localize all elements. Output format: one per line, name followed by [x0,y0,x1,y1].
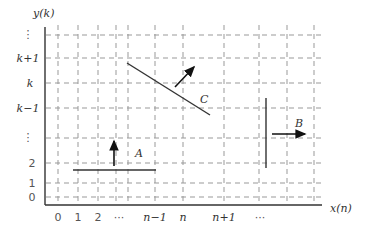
label-c: C [200,93,209,106]
svg-text:1: 1 [29,177,36,190]
svg-text:k−1: k−1 [17,102,40,115]
svg-text:⋮: ⋮ [23,28,34,41]
svg-text:n−1: n−1 [143,211,166,224]
x-tick-labels: 0 1 2 ··· n−1 n n+1 ··· [55,211,266,224]
svg-text:0: 0 [29,191,36,204]
svg-text:0: 0 [55,211,62,224]
svg-text:···: ··· [114,211,125,224]
svg-text:1: 1 [75,211,82,224]
svg-text:n: n [179,211,186,224]
vertical-grid [58,25,314,205]
x-axis-title: x(n) [330,202,352,215]
segment-c: C [127,63,210,115]
segment-a: A [73,141,156,170]
diagram-canvas: y(k) x(n) ⋮ k+1 k k−1 ⋮ 2 1 0 0 1 2 ··· … [0,0,372,237]
svg-text:2: 2 [95,211,102,224]
svg-text:···: ··· [255,211,266,224]
svg-text:k: k [27,77,34,90]
svg-text:2: 2 [29,157,36,170]
horizontal-grid [46,35,322,197]
arrow-up-right-icon [175,67,194,87]
svg-text:⋮: ⋮ [23,131,34,144]
label-a: A [134,147,143,160]
svg-text:k+1: k+1 [17,52,40,65]
svg-text:n+1: n+1 [212,211,235,224]
y-axis-title: y(k) [32,7,54,20]
label-b: B [294,117,303,130]
y-tick-labels: ⋮ k+1 k k−1 ⋮ 2 1 0 [17,28,40,204]
